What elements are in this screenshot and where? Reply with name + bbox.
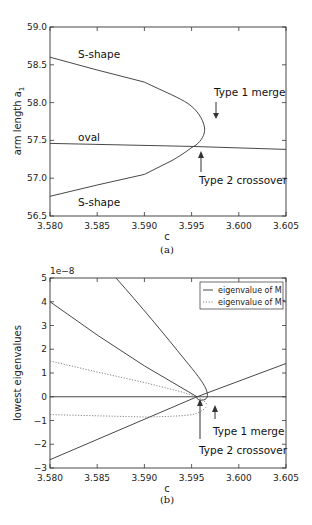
y-tick-label: 57.5 xyxy=(27,135,47,145)
y-tick-label: 58.5 xyxy=(27,60,47,70)
panel-a-x-axis-label: c xyxy=(164,231,170,242)
oval-label: oval xyxy=(78,131,100,143)
panel-a-y-tick-labels: 59.0 58.5 58.0 57.5 57.0 56.5 xyxy=(27,22,47,221)
s-shape-lower-curve xyxy=(50,148,191,196)
panel-a-y-axis-label: arm length a1 xyxy=(12,87,26,156)
s-shape-lower-label: S-shape xyxy=(78,196,120,208)
y-tick-label: 1 xyxy=(41,368,47,378)
panel-b-x-tick-labels: 3.580 3.585 3.590 3.595 3.600 3.605 xyxy=(37,473,299,483)
y-tick-label: 0 xyxy=(41,392,47,402)
oval-curve xyxy=(50,143,286,149)
panel-a: 59.0 58.5 58.0 57.5 57.0 56.5 3.580 3.58… xyxy=(12,22,299,255)
legend: eigenvalue of M eigenvalue of M⁺ xyxy=(200,282,286,309)
panel-a-caption: (a) xyxy=(160,244,174,255)
x-tick-label: 3.580 xyxy=(37,473,63,483)
panel-b-y-tick-labels: 5 4 3 2 1 0 −1 −2 −3 xyxy=(34,273,48,473)
panel-b: 1e−8 5 4 3 2 1 0 −1 −2 −3 3.580 3.585 3.… xyxy=(12,266,299,505)
steep-eigenvalue-loop-curve xyxy=(116,278,207,400)
legend-label-mplus: eigenvalue of M⁺ xyxy=(218,298,286,307)
x-tick-label: 3.595 xyxy=(179,473,205,483)
legend-label-m: eigenvalue of M xyxy=(218,286,282,295)
type2-crossover-label: Type 2 crossover xyxy=(198,174,288,186)
y-tick-label: 58.0 xyxy=(27,98,47,108)
y-tick-label: −1 xyxy=(34,416,47,426)
y-tick-label: 56.5 xyxy=(27,211,47,221)
descending-eigenvalue-curve xyxy=(50,302,197,397)
y-tick-label: −2 xyxy=(34,439,47,449)
type2-crossover-label-b: Type 2 crossover xyxy=(198,444,288,456)
panel-b-y-axis-label: lowest eigenvalues xyxy=(12,325,23,421)
y-axis-label-subscript: 1 xyxy=(18,87,26,91)
x-tick-label: 3.590 xyxy=(132,473,158,483)
figure: 59.0 58.5 58.0 57.5 57.0 56.5 3.580 3.58… xyxy=(0,0,312,525)
upper-mplus-curve xyxy=(50,361,207,405)
x-tick-label: 3.600 xyxy=(226,221,252,231)
type2-crossover-arrow-icon xyxy=(198,151,204,172)
x-tick-label: 3.600 xyxy=(226,473,252,483)
x-tick-label: 3.590 xyxy=(132,221,158,231)
type1-merge-label-b: Type 1 merge xyxy=(212,425,284,437)
x-tick-label: 3.595 xyxy=(179,221,205,231)
y-tick-label: 59.0 xyxy=(27,22,47,32)
type1-merge-label: Type 1 merge xyxy=(213,86,285,98)
s-shape-upper-curve xyxy=(50,57,205,148)
y-tick-label: 4 xyxy=(41,297,47,307)
type1-merge-arrow-b-icon xyxy=(212,405,218,419)
y-tick-label: 57.0 xyxy=(27,173,47,183)
s-shape-upper-label: S-shape xyxy=(78,48,120,60)
x-tick-label: 3.605 xyxy=(273,473,299,483)
y-tick-label: 2 xyxy=(41,344,47,354)
x-tick-label: 3.585 xyxy=(84,473,110,483)
panel-b-x-axis-label: c xyxy=(164,483,170,494)
x-tick-label: 3.585 xyxy=(84,221,110,231)
lower-mplus-curve xyxy=(50,406,207,417)
panel-a-x-tick-labels: 3.580 3.585 3.590 3.595 3.600 3.605 xyxy=(37,221,299,231)
y-tick-label: 3 xyxy=(41,321,47,331)
y-offset-label: 1e−8 xyxy=(50,266,75,276)
type1-merge-arrow-icon xyxy=(213,102,219,119)
panel-b-caption: (b) xyxy=(160,494,174,505)
x-tick-label: 3.605 xyxy=(273,221,299,231)
type2-crossover-arrow-b-icon xyxy=(197,399,203,439)
y-tick-label: −3 xyxy=(34,463,47,473)
y-axis-label-main: arm length a xyxy=(12,91,23,155)
x-tick-label: 3.580 xyxy=(37,221,63,231)
y-tick-label: 5 xyxy=(41,273,47,283)
